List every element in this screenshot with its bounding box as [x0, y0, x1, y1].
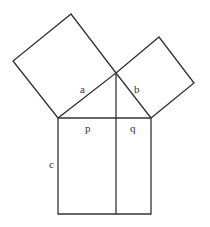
label-c: c [49, 158, 54, 170]
square-on-side-b [116, 37, 194, 118]
pythagorean-diagram: a b p q c [0, 0, 210, 227]
label-p: p [85, 122, 91, 134]
label-a: a [80, 83, 85, 95]
square-on-side-a [13, 14, 116, 118]
square-on-hypotenuse-c [58, 118, 151, 214]
label-b: b [134, 83, 140, 95]
label-q: q [130, 122, 136, 134]
